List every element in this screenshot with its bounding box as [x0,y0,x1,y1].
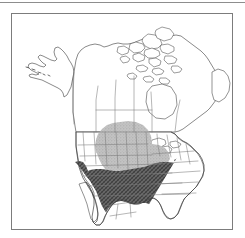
greenland-edge [212,69,230,102]
page-top-rule [0,2,245,3]
north-america-range-map [12,14,232,229]
dark-range-florida [182,200,196,227]
map-stage [12,14,232,229]
alaska-outline [28,47,74,97]
figure-page: North America distribution range map Lig… [0,0,245,238]
figure-frame [11,13,233,230]
hudson-bay [146,84,177,119]
